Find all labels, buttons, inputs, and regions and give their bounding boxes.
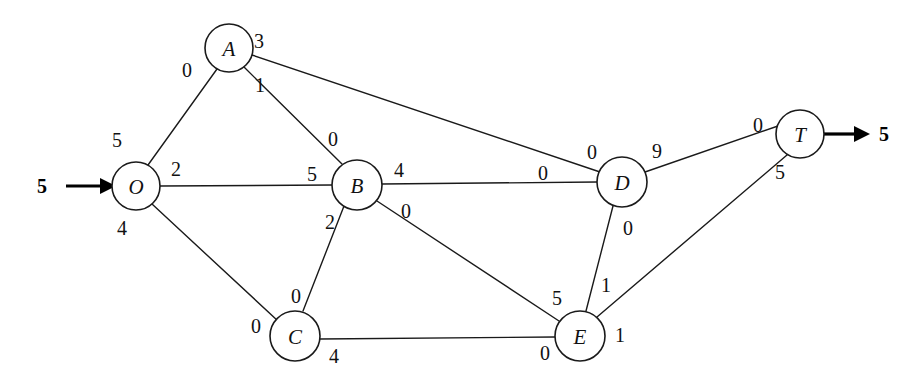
flow-label-E-T-at-E: 1: [615, 324, 625, 346]
flow-label-B-E-at-B: 0: [401, 200, 411, 222]
flow-label-E-T-at-T: 5: [775, 161, 785, 183]
flow-label-A-B-at-A: 1: [255, 74, 265, 96]
node-label-E: E: [573, 325, 587, 349]
flow-label-O-C-at-O: 4: [117, 217, 127, 239]
flow-label-A-D-at-A: 3: [254, 30, 264, 52]
sink-arrow-head: [854, 126, 870, 142]
network-canvas: O A B C D E T 0 5 3 1 0 2 5 4 0 4 0: [0, 0, 913, 388]
node-label-B: B: [351, 174, 364, 198]
source-inflow-label: 5: [37, 175, 47, 197]
flow-network-diagram: O A B C D E T 0 5 3 1 0 2 5 4 0 4 0: [0, 0, 913, 388]
flow-label-B-C-at-C: 0: [291, 285, 301, 307]
edge-B-C: [303, 206, 344, 311]
edge-O-B: [160, 185, 332, 186]
edge-O-C: [152, 204, 278, 321]
flow-label-C-E-at-E: 0: [540, 342, 550, 364]
edge-A-D: [252, 55, 600, 172]
node-label-C: C: [288, 325, 303, 349]
flow-label-D-T-at-T: 0: [753, 114, 763, 136]
node-label-D: D: [613, 171, 629, 195]
edges-group: [148, 55, 787, 339]
edge-B-D: [382, 182, 597, 184]
flow-label-O-B-at-B: 5: [307, 163, 317, 185]
flow-label-B-D-at-B: 4: [394, 159, 404, 181]
flow-label-O-A-at-O: 5: [112, 129, 122, 151]
flow-label-A-D-at-D: 0: [587, 141, 597, 163]
node-label-T: T: [794, 123, 807, 147]
flow-label-O-A-at-A: 0: [182, 59, 192, 81]
node-label-O: O: [128, 175, 143, 199]
flow-label-B-E-at-E: 5: [552, 287, 562, 309]
flow-label-D-T-at-D: 9: [652, 140, 662, 162]
edge-O-A: [148, 69, 217, 165]
flow-label-B-D-at-D: 0: [538, 162, 548, 184]
flow-label-O-B-at-O: 2: [171, 158, 181, 180]
flow-label-C-E-at-C: 4: [329, 345, 339, 367]
flow-label-B-C-at-B: 2: [325, 211, 335, 233]
flow-labels-group: 0 5 3 1 0 2 5 4 0 4 0 0 2 0 0 5 4 0 0 1 …: [112, 30, 785, 367]
node-label-A: A: [221, 37, 236, 61]
nodes-group: O A B C D E T: [112, 24, 824, 361]
flow-label-D-E-at-E: 1: [601, 274, 611, 296]
sink-outflow-label: 5: [879, 123, 889, 145]
flow-label-O-C-at-C: 0: [251, 315, 261, 337]
flow-label-A-B-at-B: 0: [328, 128, 338, 150]
edge-C-E: [320, 337, 555, 339]
flow-label-D-E-at-D: 0: [623, 217, 633, 239]
